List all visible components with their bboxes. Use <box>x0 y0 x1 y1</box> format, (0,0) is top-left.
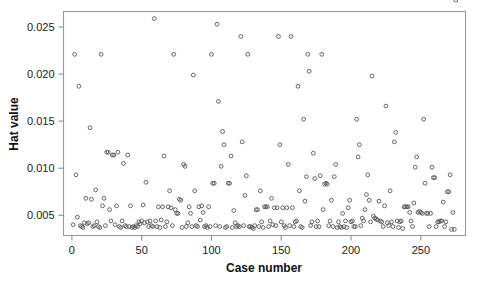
data-point <box>427 225 431 229</box>
data-point <box>162 154 166 158</box>
data-point <box>370 74 374 78</box>
x-tick-label: 0 <box>69 244 75 256</box>
data-point <box>180 226 184 230</box>
data-point <box>366 173 370 177</box>
data-point <box>126 153 130 157</box>
data-point <box>231 226 235 230</box>
data-point <box>363 208 367 212</box>
data-point <box>120 219 124 223</box>
data-point <box>316 219 320 223</box>
data-point <box>327 224 331 228</box>
data-point <box>288 224 292 228</box>
x-tick-label: 250 <box>412 244 430 256</box>
data-point <box>358 143 362 147</box>
data-point <box>304 175 308 179</box>
data-point <box>187 205 191 209</box>
data-point <box>392 140 396 144</box>
data-point <box>279 220 283 224</box>
data-point <box>346 206 350 210</box>
data-point <box>434 225 438 229</box>
data-point <box>303 199 307 203</box>
data-point <box>401 227 405 231</box>
data-point <box>444 220 448 224</box>
data-point <box>348 198 352 202</box>
data-point <box>198 218 202 222</box>
data-point <box>277 35 281 39</box>
data-point <box>90 197 94 201</box>
data-point <box>173 208 177 212</box>
data-point <box>369 220 373 224</box>
data-point <box>71 223 75 227</box>
data-point <box>88 126 92 130</box>
data-point <box>328 219 332 223</box>
data-point <box>390 220 394 224</box>
data-point <box>184 225 188 229</box>
data-point <box>267 225 271 229</box>
data-point <box>164 225 168 229</box>
data-point <box>73 52 77 56</box>
data-point <box>246 52 250 56</box>
data-point <box>165 220 169 224</box>
data-point <box>219 164 223 168</box>
data-point <box>193 189 197 193</box>
data-point <box>168 189 172 193</box>
data-point <box>229 154 233 158</box>
data-point <box>355 117 359 121</box>
data-point <box>321 208 325 212</box>
y-tick-label: 0.015 <box>27 115 55 127</box>
data-point <box>331 225 335 229</box>
data-point <box>222 143 226 147</box>
plot-frame <box>64 12 466 236</box>
data-point <box>359 224 363 228</box>
x-tick-label: 50 <box>136 244 148 256</box>
data-point <box>159 218 163 222</box>
data-point <box>214 224 218 228</box>
data-point <box>334 163 338 167</box>
data-point <box>268 219 272 223</box>
data-point <box>244 174 248 178</box>
data-point <box>381 225 385 229</box>
data-point <box>356 155 360 159</box>
data-point <box>291 206 295 210</box>
data-point <box>281 206 285 210</box>
data-point <box>412 201 416 205</box>
data-point <box>332 175 336 179</box>
data-point <box>337 220 341 224</box>
data-point <box>278 143 282 147</box>
data-point <box>413 165 417 169</box>
data-point <box>157 205 161 209</box>
data-point <box>320 52 324 56</box>
data-point <box>232 209 236 213</box>
data-point <box>152 17 156 21</box>
data-point <box>172 52 176 56</box>
data-point <box>286 163 290 167</box>
data-point <box>409 219 413 223</box>
x-axis-tick-labels: 050100150200250 <box>69 244 430 256</box>
data-point <box>74 173 78 177</box>
x-axis-ticks <box>72 236 421 241</box>
data-point <box>108 208 112 212</box>
data-point <box>261 226 265 230</box>
data-point <box>239 35 243 39</box>
scatter-plot-figure: 0.0050.0100.0150.0200.025 05010015020025… <box>0 0 482 282</box>
data-point <box>190 225 194 229</box>
data-point <box>103 224 107 228</box>
data-point <box>344 219 348 223</box>
data-point <box>310 220 314 224</box>
data-point <box>298 189 302 193</box>
x-axis-title: Case number <box>226 261 302 275</box>
data-point <box>243 194 247 198</box>
data-point <box>292 225 296 229</box>
data-point <box>84 196 88 200</box>
data-point <box>443 225 447 229</box>
data-point <box>411 225 415 229</box>
data-point <box>116 150 120 154</box>
data-point <box>423 181 427 185</box>
data-point <box>210 52 214 56</box>
data-point <box>367 198 371 202</box>
y-tick-label: 0.025 <box>27 21 55 33</box>
y-axis-tick-labels: 0.0050.0100.0150.0200.025 <box>27 21 55 221</box>
data-point <box>306 52 310 56</box>
data-point <box>430 165 434 169</box>
data-point <box>289 35 293 39</box>
